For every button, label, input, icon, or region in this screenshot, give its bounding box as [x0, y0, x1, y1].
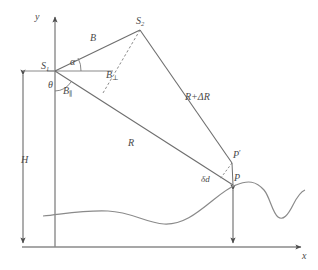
baseline-label: B: [90, 33, 96, 43]
point-p-prime-label: P′: [233, 150, 241, 160]
range-far-label: R+ΔR: [185, 92, 210, 102]
range-near-label: R: [128, 138, 134, 148]
altitude-label: H: [21, 155, 28, 165]
point-p-prime-mark: ′: [239, 149, 241, 158]
alpha-angle-label: α: [70, 57, 75, 67]
y-axis-label: y: [35, 12, 39, 22]
theta-angle-label: θ: [48, 80, 53, 90]
displacement-label: δd: [201, 175, 210, 184]
axis-group: [22, 17, 301, 247]
baseline-parallel-segment: [55, 71, 233, 185]
baseline-perpendicular-label: B⊥: [106, 70, 119, 82]
diagram-canvas: [0, 0, 318, 270]
terrain-profile-curve: [43, 182, 305, 224]
alpha-angle-arc: [78, 58, 81, 71]
b-perp-subscript: ⊥: [112, 74, 119, 82]
point-s1-subscript: 1: [46, 65, 49, 72]
b-par-subscript: ∥: [69, 90, 72, 98]
baseline-segment: [55, 30, 140, 71]
point-s2-subscript: 2: [141, 20, 144, 27]
displacement-segment: [220, 163, 232, 179]
baseline-parallel-label: B∥: [63, 86, 72, 98]
point-s1-label: S1: [41, 61, 49, 73]
point-s2-label: S2: [136, 16, 144, 28]
x-axis-label: x: [302, 251, 306, 261]
point-p-label: P: [234, 173, 240, 183]
displacement-drop-line: [232, 163, 233, 185]
insar-geometry-diagram: y x S1 S2 α θ B B⊥ B∥ R R+ΔR H δd P P′: [0, 0, 318, 270]
